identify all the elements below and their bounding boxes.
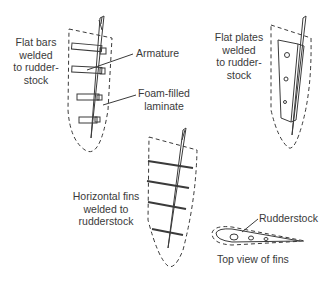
label-line: welded to: [66, 203, 146, 216]
label-line: welded: [6, 49, 66, 62]
horizontal-fins-rudder: [147, 128, 197, 267]
label-line: to rudder-: [6, 61, 66, 74]
foam-filled-laminate-label: Foam-filled laminate: [134, 87, 194, 112]
label-line: stock: [208, 69, 270, 82]
rudderstock-label: Rudderstock: [259, 212, 318, 225]
label-line: welded: [208, 44, 270, 57]
label-line: Flat plates: [208, 31, 270, 44]
label-line: to rudder-: [208, 56, 270, 69]
label-line: Foam-filled: [134, 87, 194, 100]
label-line: Flat bars: [6, 36, 66, 49]
top-view-caption: Top view of fins: [217, 253, 289, 266]
flat-plates-label: Flat plates welded to rudder- stock: [208, 31, 270, 81]
flat-bars-label: Flat bars welded to rudder- stock: [6, 36, 66, 86]
label-line: Horizontal fins: [66, 190, 146, 203]
armature-label: Armature: [136, 47, 179, 60]
label-line: stock: [6, 74, 66, 87]
horizontal-fins-label: Horizontal fins welded to rudderstock: [66, 190, 146, 228]
label-line: rudderstock: [66, 215, 146, 228]
label-line: laminate: [134, 100, 194, 113]
flat-bars-rudder: [68, 16, 136, 152]
flat-plates-rudder: [271, 16, 311, 148]
